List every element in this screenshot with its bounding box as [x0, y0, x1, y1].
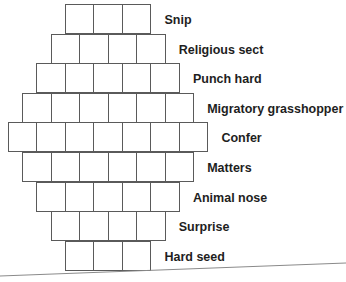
puzzle-cell[interactable] [122, 4, 152, 34]
puzzle-row [51, 35, 166, 65]
diamond-word-puzzle: SnipReligious sectPunch hardMigratory gr… [0, 0, 346, 282]
puzzle-cell[interactable] [51, 152, 81, 182]
puzzle-cell[interactable] [51, 34, 81, 64]
puzzle-cell[interactable] [93, 182, 123, 212]
puzzle-row [65, 5, 152, 35]
puzzle-cell[interactable] [93, 241, 123, 271]
puzzle-cell[interactable] [36, 122, 66, 152]
puzzle-cell[interactable] [93, 122, 123, 152]
puzzle-cell[interactable] [150, 63, 180, 93]
puzzle-cell[interactable] [22, 93, 52, 123]
puzzle-cell[interactable] [108, 93, 138, 123]
puzzle-cell[interactable] [136, 152, 166, 182]
puzzle-cell[interactable] [51, 211, 81, 241]
puzzle-cell[interactable] [179, 122, 209, 152]
puzzle-cell[interactable] [65, 122, 95, 152]
clue-label: Animal nose [193, 191, 267, 205]
puzzle-cell[interactable] [36, 63, 66, 93]
puzzle-cell[interactable] [36, 182, 66, 212]
puzzle-cell[interactable] [108, 211, 138, 241]
puzzle-cell[interactable] [65, 241, 95, 271]
clue-label: Hard seed [164, 250, 224, 264]
clue-label: Religious sect [179, 43, 264, 57]
puzzle-cell[interactable] [165, 152, 195, 182]
clue-label: Migratory grasshopper [207, 102, 343, 116]
puzzle-cell[interactable] [79, 211, 109, 241]
puzzle-cell[interactable] [108, 34, 138, 64]
puzzle-row [36, 183, 180, 213]
puzzle-cell[interactable] [79, 34, 109, 64]
puzzle-cell[interactable] [136, 34, 166, 64]
puzzle-cell[interactable] [122, 241, 152, 271]
puzzle-cell[interactable] [93, 63, 123, 93]
puzzle-row [65, 242, 152, 272]
clue-label: Punch hard [193, 72, 262, 86]
puzzle-cell[interactable] [122, 63, 152, 93]
puzzle-cell[interactable] [65, 63, 95, 93]
puzzle-cell[interactable] [65, 4, 95, 34]
clue-label: Snip [164, 13, 191, 27]
puzzle-row [8, 123, 209, 153]
clue-label: Matters [207, 161, 251, 175]
puzzle-cell[interactable] [65, 182, 95, 212]
puzzle-cell[interactable] [79, 152, 109, 182]
puzzle-cell[interactable] [122, 182, 152, 212]
puzzle-cell[interactable] [93, 4, 123, 34]
clue-label: Surprise [179, 220, 230, 234]
puzzle-cell[interactable] [136, 211, 166, 241]
puzzle-cell[interactable] [150, 182, 180, 212]
puzzle-row [36, 64, 180, 94]
puzzle-cell[interactable] [165, 93, 195, 123]
clue-label: Confer [221, 131, 261, 145]
puzzle-row [22, 153, 194, 183]
puzzle-cell[interactable] [122, 122, 152, 152]
puzzle-cell[interactable] [79, 93, 109, 123]
puzzle-cell[interactable] [136, 93, 166, 123]
puzzle-cell[interactable] [150, 122, 180, 152]
puzzle-cell[interactable] [51, 93, 81, 123]
puzzle-row [22, 94, 194, 124]
puzzle-row [51, 212, 166, 242]
puzzle-cell[interactable] [108, 152, 138, 182]
puzzle-cell[interactable] [22, 152, 52, 182]
puzzle-cell[interactable] [8, 122, 38, 152]
